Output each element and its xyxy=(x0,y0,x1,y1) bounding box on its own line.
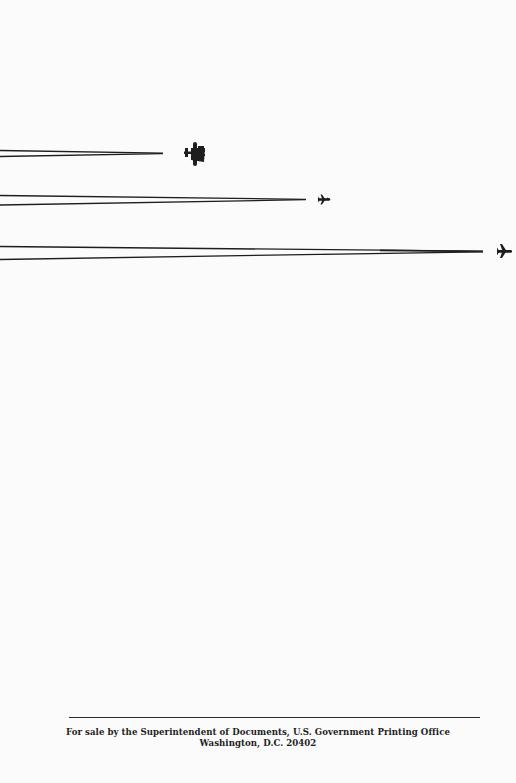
footer-divider xyxy=(69,717,480,718)
jet-plane-icon xyxy=(497,244,512,258)
jet-plane-icon xyxy=(318,195,331,205)
footer-address: Washington, D.C. 20402 xyxy=(0,738,516,748)
contrail-1 xyxy=(0,151,163,157)
contrail-2 xyxy=(0,196,306,206)
bomber-plane-icon xyxy=(184,142,205,166)
footer-sale-notice: For sale by the Superintendent of Docume… xyxy=(0,727,516,737)
contrail-3 xyxy=(0,247,483,260)
aircraft-illustration xyxy=(0,0,516,783)
